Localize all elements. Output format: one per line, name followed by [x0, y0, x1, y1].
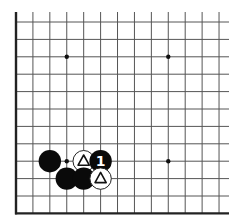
- go-board: 1: [0, 0, 241, 222]
- move-number-label: 1: [96, 153, 106, 169]
- black-stone-icon: [39, 150, 61, 172]
- black-stone: [39, 150, 61, 172]
- white-stone: [90, 168, 111, 189]
- star-point-icon: [166, 159, 170, 163]
- star-point-icon: [65, 159, 69, 163]
- star-point-icon: [65, 55, 69, 59]
- white-stone-icon: [90, 168, 111, 189]
- star-point-icon: [166, 55, 170, 59]
- board-grid: [15, 12, 229, 214]
